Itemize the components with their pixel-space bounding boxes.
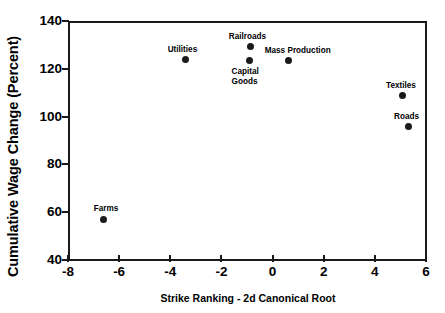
y-tick-label-wrap: 140: [0, 14, 62, 28]
data-point-marker[interactable]: [405, 123, 412, 130]
data-point-label: Railroads: [229, 32, 266, 42]
y-tick-label-wrap: 120: [0, 62, 62, 76]
x-tick-label: 6: [406, 265, 445, 279]
y-tick-label: 120: [16, 62, 62, 76]
x-tick-label-wrap: -8: [48, 265, 88, 279]
data-point-label: Mass Production: [265, 46, 331, 56]
x-tick-label-wrap: -4: [150, 265, 190, 279]
x-tick-label: -2: [201, 265, 241, 279]
data-point-label: Roads: [394, 112, 419, 122]
x-tick-label: -6: [99, 265, 139, 279]
x-tick-label: -4: [150, 265, 190, 279]
data-point-label: Utilities: [168, 45, 198, 55]
x-axis-title: Strike Ranking - 2d Canonical Root: [68, 292, 428, 304]
x-tick-label: 4: [355, 265, 395, 279]
x-tick-mark: [425, 255, 427, 262]
y-tick-label-wrap: 80: [0, 157, 62, 171]
x-tick-label-wrap: -6: [99, 265, 139, 279]
x-tick-label-wrap: 4: [355, 265, 395, 279]
x-tick-mark: [374, 255, 376, 262]
x-tick-mark: [272, 255, 274, 262]
y-tick-label: 80: [16, 157, 62, 171]
data-point-label: Capital Goods: [232, 67, 259, 86]
x-tick-label: -8: [48, 265, 88, 279]
data-point-label: Farms: [94, 204, 119, 214]
x-tick-mark: [220, 255, 222, 262]
y-tick-label: 60: [16, 205, 62, 219]
x-tick-mark: [67, 255, 69, 262]
x-tick-mark: [323, 255, 325, 262]
y-tick-label-wrap: 60: [0, 205, 62, 219]
x-tick-mark: [169, 255, 171, 262]
scatter-chart-figure: Cumulative Wage Change (Percent) 4060801…: [0, 0, 445, 313]
x-tick-mark: [118, 255, 120, 262]
x-tick-label: 0: [253, 265, 293, 279]
x-tick-label-wrap: -2: [201, 265, 241, 279]
y-tick-label-wrap: 100: [0, 110, 62, 124]
x-tick-label: 2: [304, 265, 344, 279]
x-tick-label-wrap: 2: [304, 265, 344, 279]
y-tick-label: 100: [16, 110, 62, 124]
data-point-label: Textiles: [386, 81, 416, 91]
y-tick-label: 140: [16, 14, 62, 28]
x-tick-label-wrap: 6: [406, 265, 445, 279]
x-tick-label-wrap: 0: [253, 265, 293, 279]
